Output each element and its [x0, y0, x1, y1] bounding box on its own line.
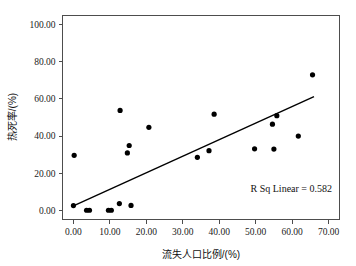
y-tick-label: 0.00 — [39, 206, 56, 216]
data-point — [310, 72, 315, 77]
x-tick-label: 10.00 — [99, 227, 121, 237]
x-tick-label: 0.00 — [65, 227, 82, 237]
x-tick-label: 70.00 — [318, 227, 340, 237]
data-point — [212, 112, 217, 117]
x-tick-label: 20.00 — [136, 227, 158, 237]
data-point — [195, 155, 200, 160]
data-point — [117, 201, 122, 206]
data-point — [146, 125, 151, 130]
x-tick-label: 50.00 — [245, 227, 267, 237]
x-tick-label: 60.00 — [281, 227, 303, 237]
data-point — [72, 153, 77, 158]
data-point — [270, 122, 275, 127]
data-point — [87, 208, 92, 213]
y-tick-label: 80.00 — [34, 57, 56, 67]
y-axis-title: 热死率/(%) — [6, 93, 18, 141]
y-tick-label: 20.00 — [34, 169, 56, 179]
data-point — [127, 143, 132, 148]
r-squared-annotation: R Sq Linear = 0.582 — [251, 183, 332, 194]
x-axis-title: 流失人口比例/(%) — [162, 248, 240, 260]
y-tick-label: 40.00 — [34, 131, 56, 141]
x-tick-label: 30.00 — [172, 227, 194, 237]
chart-canvas: 0.0010.0020.0030.0040.0050.0060.0070.00 … — [0, 0, 356, 266]
x-tick-label: 40.00 — [209, 227, 231, 237]
scatter-chart-figure: 0.0010.0020.0030.0040.0050.0060.0070.00 … — [0, 0, 356, 266]
data-point — [109, 208, 114, 213]
data-point — [128, 203, 133, 208]
data-point — [206, 148, 211, 153]
data-point — [117, 108, 122, 113]
y-tick-label: 60.00 — [34, 94, 56, 104]
data-point — [252, 146, 257, 151]
data-point — [125, 150, 130, 155]
data-point — [71, 203, 76, 208]
data-point — [271, 146, 276, 151]
data-point — [296, 133, 301, 138]
y-tick-label: 100.00 — [29, 20, 55, 30]
data-point — [274, 113, 279, 118]
